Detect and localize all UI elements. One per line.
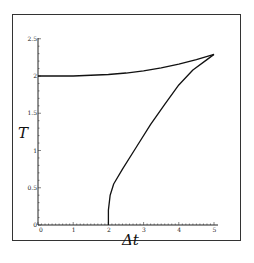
axis-ticks — [38, 39, 214, 225]
x-tick-label: 5 — [213, 226, 217, 233]
x-tick-label: 1 — [72, 226, 76, 233]
x-tick-label: 2 — [107, 226, 111, 233]
y-tick-label: 1.5 — [27, 109, 37, 116]
x-tick-label: 0 — [39, 226, 43, 233]
y-tick-label: 0 — [33, 221, 37, 228]
tick-labels: 01234500.511.522.5 — [27, 35, 216, 233]
line-chart: 01234500.511.522.5 Δt T — [0, 0, 254, 263]
y-tick-label: 1 — [33, 147, 37, 154]
data-series — [38, 54, 214, 225]
x-tick-label: 3 — [142, 226, 146, 233]
y-tick-label: 2 — [33, 72, 37, 79]
y-tick-label: 2.5 — [27, 35, 37, 42]
series-upper-branch — [38, 54, 214, 76]
x-tick-label: 4 — [177, 226, 181, 233]
x-axis-label: Δt — [121, 231, 140, 249]
y-axis-label: T — [18, 124, 29, 142]
y-tick-label: 0.5 — [27, 184, 37, 191]
series-lower-branch — [108, 54, 214, 225]
